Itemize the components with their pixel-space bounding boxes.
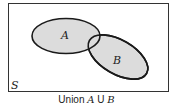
set-a-label: A (60, 29, 69, 42)
set-b-label: B (112, 54, 121, 67)
caption: Union A U B (58, 94, 114, 105)
venn-diagram: A B S Union A U B (0, 0, 173, 106)
caption-prefix: Union (58, 94, 87, 105)
universe-label: S (11, 79, 19, 92)
caption-set-a: A (86, 94, 94, 105)
caption-set-b: B (106, 94, 114, 105)
caption-operator: U (95, 94, 108, 105)
